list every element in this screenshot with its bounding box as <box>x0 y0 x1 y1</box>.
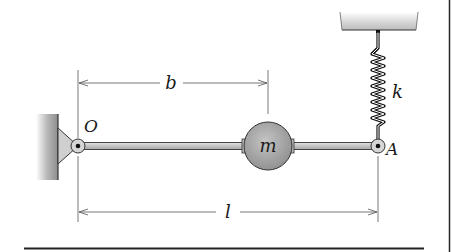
dim-b-label: b <box>165 72 177 93</box>
end-A-label: A <box>384 139 398 159</box>
rod <box>78 143 378 150</box>
diagram-canvas: m O k A b l <box>0 0 451 252</box>
pivot-O <box>71 139 85 153</box>
spring-label: k <box>392 81 403 102</box>
pivot-A <box>371 139 385 153</box>
ceiling-mount <box>340 12 418 33</box>
mass-label: m <box>259 135 276 156</box>
wall <box>36 114 58 180</box>
pivot-O-label: O <box>84 116 98 136</box>
mass-m: m <box>244 122 292 170</box>
dim-l-label: l <box>225 201 231 222</box>
spring-k <box>372 33 384 140</box>
